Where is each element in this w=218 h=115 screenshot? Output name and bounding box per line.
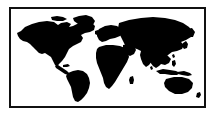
world-map-graphic: North AmericaGreenlandCentral AmericaSou…: [11, 9, 204, 106]
figure-root: World Map Black silhouette world map ins…: [0, 0, 218, 115]
map-canvas: North AmericaGreenlandCentral AmericaSou…: [11, 9, 204, 106]
map-border: North AmericaGreenlandCentral AmericaSou…: [9, 7, 206, 108]
